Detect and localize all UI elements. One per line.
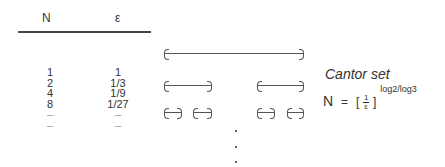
formula-lhs: N [323, 93, 333, 109]
cell-eps: – [103, 120, 133, 131]
cell-n: – [35, 120, 65, 131]
cantor-segment [194, 112, 211, 113]
cantor-segment [288, 112, 303, 113]
header-epsilon: ε [115, 11, 120, 25]
formula-open-bracket: [ [356, 95, 359, 109]
header-n: N [42, 11, 51, 25]
formula-exponent: log2/log3 [380, 84, 417, 94]
cantor-segment [258, 112, 274, 113]
continuation-dot [235, 161, 237, 163]
formula-close-bracket: ] [373, 95, 376, 109]
dimension-formula: N = [ 1 ε ] log2/log3 [323, 93, 417, 111]
formula-denominator: ε [364, 103, 368, 111]
cantor-segment [165, 53, 303, 54]
cantor-segment [258, 85, 303, 86]
table-rule [18, 31, 151, 33]
formula-fraction: 1 ε [363, 94, 369, 111]
continuation-dot [235, 130, 237, 132]
formula-numerator: 1 [364, 94, 368, 102]
cantor-segment [165, 85, 211, 86]
cantor-segment [165, 112, 181, 113]
diagram-title: Cantor set [325, 66, 390, 82]
continuation-dot [235, 146, 237, 148]
formula-equals: = [341, 95, 348, 109]
